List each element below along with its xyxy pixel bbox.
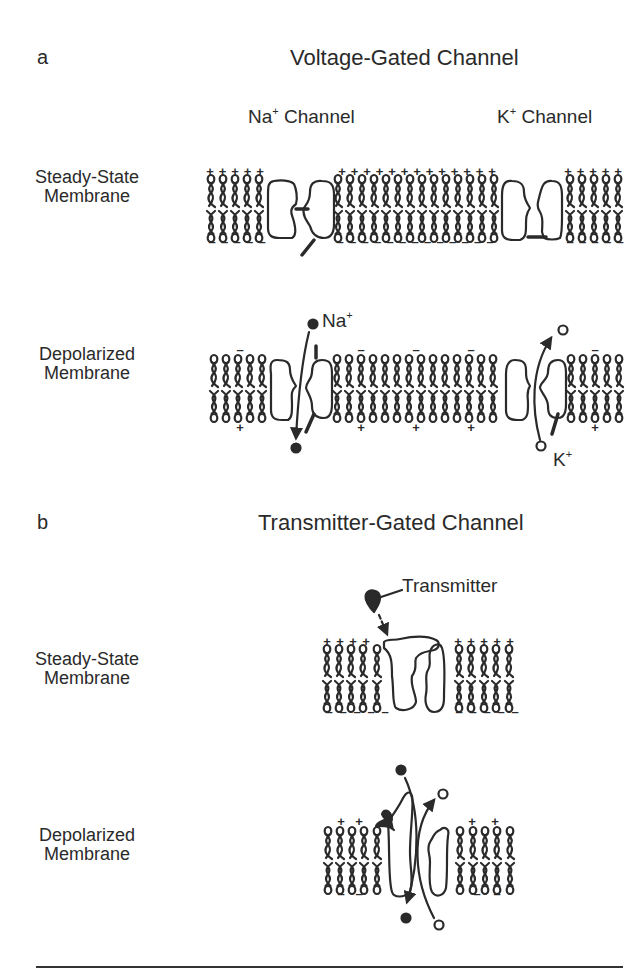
lipid-group-left [210, 355, 266, 422]
negative-charge: – [336, 234, 343, 249]
positive-charge: + [362, 634, 370, 649]
negative-charge: – [357, 342, 364, 357]
positive-charge: + [413, 164, 421, 179]
negative-charge: – [355, 886, 362, 901]
negative-charge: – [483, 704, 490, 719]
positive-charge: + [488, 164, 496, 179]
negative-charge: – [591, 234, 598, 249]
positive-charge: + [376, 164, 384, 179]
negative-charge: – [497, 704, 504, 719]
negative-charge: – [493, 886, 500, 901]
negative-charge: – [449, 234, 456, 249]
k-ion-outside-icon [559, 326, 568, 335]
na-ion-outside-icon [309, 320, 318, 329]
negative-charge: – [591, 342, 598, 357]
negative-charge: – [258, 234, 265, 249]
positive-charge: + [338, 164, 346, 179]
negative-charge: – [474, 234, 481, 249]
positive-charge: + [219, 164, 227, 179]
transmitter-icon [366, 591, 380, 612]
charge-symbols: +++++++++++++++++++++++–––––––––––––––––… [206, 164, 623, 901]
negative-charge: – [604, 234, 611, 249]
negative-charge: – [469, 704, 476, 719]
positive-charge: + [351, 164, 359, 179]
cation-out-outside-icon [439, 790, 448, 799]
positive-charge: + [493, 634, 501, 649]
lipid-group-middle [334, 175, 498, 242]
cation-out-inside-icon [435, 921, 444, 930]
negative-charge: – [208, 234, 215, 249]
k-channel-closed [502, 181, 562, 240]
lipid-group-right [567, 355, 623, 422]
positive-charge: + [577, 164, 585, 179]
positive-charge: + [480, 634, 488, 649]
negative-charge: – [246, 234, 253, 249]
negative-charge: – [386, 234, 393, 249]
negative-charge: – [461, 234, 468, 249]
negative-charge: – [424, 234, 431, 249]
lipid-group-middle [333, 355, 497, 422]
negative-charge: – [361, 234, 368, 249]
positive-charge: + [337, 814, 345, 829]
membrane-diagram: +++++++++++++++++++++++–––––––––––––––––… [0, 0, 639, 975]
positive-charge: + [451, 164, 459, 179]
positive-charge: + [323, 634, 331, 649]
positive-charge: + [564, 164, 572, 179]
positive-charge: + [236, 420, 244, 435]
positive-charge: + [602, 164, 610, 179]
negative-charge: – [412, 342, 419, 357]
positive-charge: + [388, 164, 396, 179]
positive-charge: + [412, 420, 420, 435]
na-channel-closed [268, 180, 334, 255]
negative-charge: – [511, 704, 518, 719]
lipid-group-right [566, 175, 622, 242]
positive-charge: + [244, 164, 252, 179]
negative-charge: – [221, 234, 228, 249]
transmitter-molecule [366, 590, 402, 634]
positive-charge: + [454, 634, 462, 649]
positive-charge: + [231, 164, 239, 179]
negative-charge: – [367, 704, 374, 719]
negative-charge: – [455, 704, 462, 719]
bound-transmitter-icon [382, 811, 392, 820]
negative-charge: – [325, 704, 332, 719]
na-ion-inside-icon [292, 444, 301, 453]
negative-charge: – [349, 234, 356, 249]
negative-charge: – [411, 234, 418, 249]
positive-charge: + [336, 634, 344, 649]
negative-charge: – [436, 234, 443, 249]
transmitter-receptor-closed [384, 637, 445, 712]
positive-charge: + [438, 164, 446, 179]
positive-charge: + [256, 164, 264, 179]
negative-charge: – [353, 704, 360, 719]
positive-charge: + [491, 814, 499, 829]
negative-charge: – [374, 234, 381, 249]
cation-in-inside-icon [402, 914, 411, 923]
positive-charge: + [349, 634, 357, 649]
lipid-group-left [207, 175, 263, 242]
positive-charge: + [401, 164, 409, 179]
positive-charge: + [463, 164, 471, 179]
negative-charge: – [566, 234, 573, 249]
positive-charge: + [467, 420, 475, 435]
negative-charge: – [473, 886, 480, 901]
na-channel-open [271, 346, 332, 432]
positive-charge: + [426, 164, 434, 179]
positive-charge: + [357, 420, 365, 435]
negative-charge: – [337, 886, 344, 901]
positive-charge: + [506, 634, 514, 649]
positive-charge: + [206, 164, 214, 179]
negative-charge: – [467, 342, 474, 357]
positive-charge: + [363, 164, 371, 179]
k-ion-inside-icon [537, 442, 546, 451]
positive-charge: + [614, 164, 622, 179]
negative-charge: – [339, 704, 346, 719]
positive-charge: + [589, 164, 597, 179]
negative-charge: – [399, 234, 406, 249]
negative-charge: – [616, 234, 623, 249]
bottom-rule [36, 966, 623, 968]
cation-in-outside-icon [397, 766, 406, 775]
negative-charge: – [233, 234, 240, 249]
negative-charge: – [579, 234, 586, 249]
negative-charge: – [486, 234, 493, 249]
